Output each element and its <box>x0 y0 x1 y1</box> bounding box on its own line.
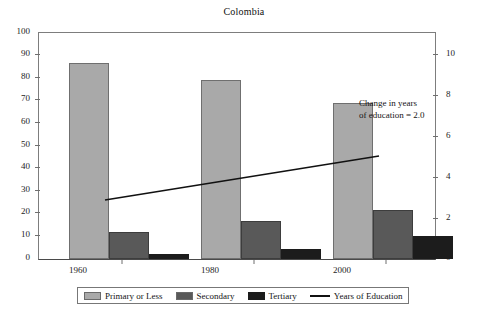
left-axis-tick-20: 20 <box>4 207 30 216</box>
legend-swatch-primary-icon <box>84 292 101 300</box>
bar-1960-tertiary <box>149 254 189 259</box>
bar-1980-primary <box>201 80 241 259</box>
legend-label-secondary: Secondary <box>197 291 235 301</box>
legend-item-primary-or-less[interactable]: Primary or Less <box>84 291 163 301</box>
plot-area <box>39 33 435 259</box>
chart-legend: Primary or Less Secondary Tertiary Years… <box>77 287 409 304</box>
left-axis-tick-70: 70 <box>4 94 30 103</box>
legend-swatch-tertiary-icon <box>248 292 265 300</box>
bar-1980-secondary <box>241 221 281 259</box>
category-label-2000: 2000 <box>312 265 372 275</box>
right-axis-tick-8: 8 <box>446 90 472 99</box>
left-axis-tick-10: 10 <box>4 230 30 239</box>
chart-annotation: Change in years of education = 2.0 <box>359 97 425 121</box>
category-label-1980: 1980 <box>180 265 240 275</box>
left-axis-tick-60: 60 <box>4 117 30 126</box>
legend-label-years-of-education: Years of Education <box>334 291 403 301</box>
bar-2000-tertiary <box>413 236 453 259</box>
right-axis-tick-6: 6 <box>446 131 472 140</box>
left-axis-tick-80: 80 <box>4 72 30 81</box>
annotation-line-1: Change in years <box>359 97 425 109</box>
legend-swatch-secondary-icon <box>176 292 193 300</box>
legend-item-secondary[interactable]: Secondary <box>176 291 235 301</box>
legend-label-tertiary: Tertiary <box>269 291 297 301</box>
legend-label-primary: Primary or Less <box>105 291 163 301</box>
left-axis-tick-40: 40 <box>4 162 30 171</box>
chart-figure: Colombia 100 90 80 70 60 50 40 30 20 10 … <box>0 0 488 317</box>
chart-title: Colombia <box>0 6 488 17</box>
category-label-1960: 1960 <box>48 265 108 275</box>
left-axis-tick-100: 100 <box>4 27 30 36</box>
bar-2000-primary <box>333 103 373 259</box>
annotation-line-2: of education = 2.0 <box>359 109 425 121</box>
right-axis-tick-4: 4 <box>446 172 472 181</box>
bar-1960-secondary <box>109 232 149 259</box>
left-axis-tick-50: 50 <box>4 140 30 149</box>
bar-1960-primary <box>69 63 109 259</box>
left-axis-tick-0: 0 <box>4 253 30 262</box>
bar-2000-secondary <box>373 210 413 259</box>
legend-item-years-of-education[interactable]: Years of Education <box>310 291 403 301</box>
left-axis-tick-30: 30 <box>4 185 30 194</box>
left-axis-tick-90: 90 <box>4 49 30 58</box>
right-axis-tick-10: 10 <box>446 49 472 58</box>
right-axis-tick-2: 2 <box>446 213 472 222</box>
bar-1980-tertiary <box>281 249 321 259</box>
legend-item-tertiary[interactable]: Tertiary <box>248 291 297 301</box>
legend-line-icon <box>310 295 330 297</box>
